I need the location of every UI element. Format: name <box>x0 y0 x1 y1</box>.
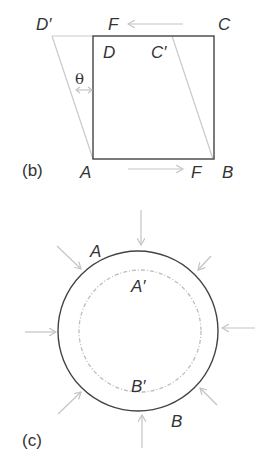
panel-b-shear: D′ F C D C′ θ (b) A F B <box>22 15 233 182</box>
panel-label-c: (c) <box>22 431 42 450</box>
sheared-left-edge <box>52 36 93 159</box>
point-label-b-prime: B′ <box>131 377 146 396</box>
force-label-top: F <box>108 15 120 34</box>
diagram-canvas: D′ F C D C′ θ (b) A F B A A′ B′ B (c) <box>0 0 269 465</box>
panel-c-compression: A A′ B′ B (c) <box>22 210 255 450</box>
angle-label-theta: θ <box>75 70 84 88</box>
vertex-label-d: D <box>103 43 115 62</box>
arrow-bottom-left-icon <box>58 392 81 414</box>
point-label-b: B <box>171 412 182 431</box>
arrow-top-left-icon <box>57 246 81 269</box>
panel-label-b: (b) <box>22 161 43 180</box>
arrow-top-right-icon <box>198 256 211 270</box>
sheared-right-edge <box>172 36 213 159</box>
point-label-a-prime: A′ <box>130 277 146 296</box>
vertex-label-c: C <box>218 15 231 34</box>
vertex-label-c-prime: C′ <box>151 43 167 62</box>
force-label-bottom: F <box>191 163 203 182</box>
arrow-bottom-right-icon <box>200 388 217 405</box>
vertex-label-b: B <box>222 163 233 182</box>
vertex-label-d-prime: D′ <box>36 15 52 34</box>
point-label-a: A <box>89 242 101 261</box>
vertex-label-a: A <box>79 163 91 182</box>
